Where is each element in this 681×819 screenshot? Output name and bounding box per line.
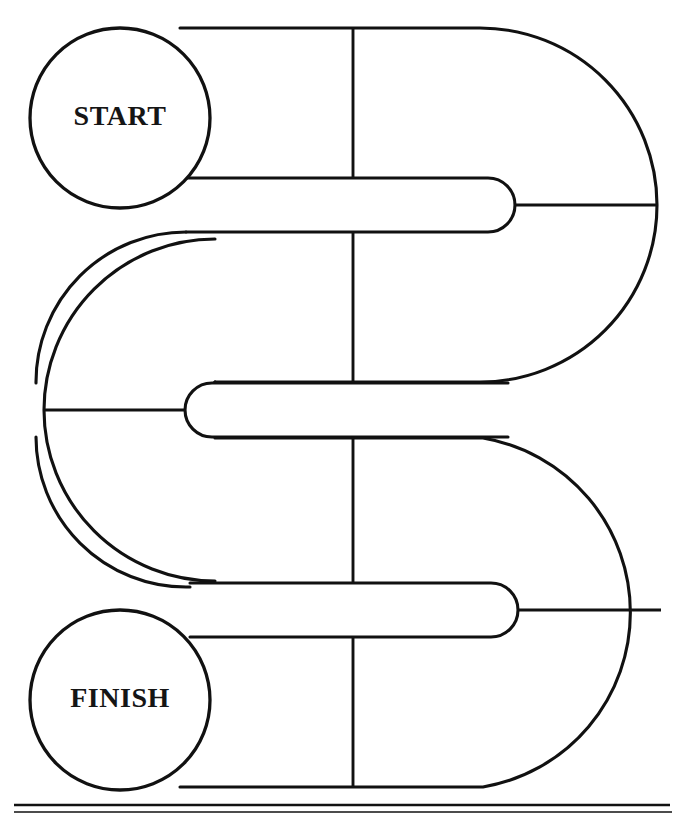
middle-finger-path xyxy=(185,383,508,437)
track-diagram-svg: START FINISH xyxy=(0,0,681,819)
s-inner-lower-left-arc xyxy=(36,437,190,587)
finish-label: FINISH xyxy=(70,682,169,713)
start-label: START xyxy=(74,100,167,131)
bottom-finger-path xyxy=(190,583,518,637)
bottom-loop-outer-path xyxy=(180,438,630,787)
top-finger-path xyxy=(186,178,515,232)
node-start[interactable]: START xyxy=(30,28,210,208)
footer-rules-group xyxy=(14,805,672,812)
s-inner-upper-left-arc xyxy=(36,232,186,383)
node-finish[interactable]: FINISH xyxy=(30,610,210,790)
diagram-canvas: START FINISH xyxy=(0,0,681,819)
